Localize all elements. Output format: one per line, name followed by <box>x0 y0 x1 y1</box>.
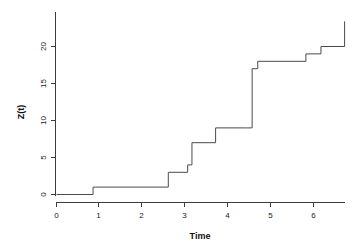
x-axis-tick-labels: 0 1 2 3 4 5 6 <box>54 211 316 220</box>
x-tick-label-1: 1 <box>96 211 101 220</box>
x-tick-label-0: 0 <box>54 211 59 220</box>
x-tick-label-3: 3 <box>182 211 187 220</box>
y-axis-ticks <box>51 47 56 195</box>
x-tick-label-6: 6 <box>311 211 316 220</box>
y-axis-title: Z(t) <box>16 105 26 120</box>
y-axis-tick-labels: 20 15 10 5 0 <box>39 42 48 197</box>
y-tick-label-10: 10 <box>39 116 48 125</box>
x-tick-label-5: 5 <box>268 211 273 220</box>
step-function-line <box>57 21 345 194</box>
x-axis-ticks <box>57 203 314 208</box>
y-tick-label-15: 15 <box>39 79 48 88</box>
x-tick-label-2: 2 <box>139 211 144 220</box>
x-tick-label-4: 4 <box>225 211 230 220</box>
y-tick-label-0: 0 <box>39 192 48 197</box>
step-plot-svg: 20 15 10 5 0 0 1 2 3 4 5 6 Time Z <box>0 0 364 249</box>
chart-canvas: 20 15 10 5 0 0 1 2 3 4 5 6 Time Z <box>0 0 364 249</box>
y-tick-label-5: 5 <box>39 155 48 160</box>
x-axis-title: Time <box>190 231 211 241</box>
y-tick-label-20: 20 <box>39 42 48 51</box>
